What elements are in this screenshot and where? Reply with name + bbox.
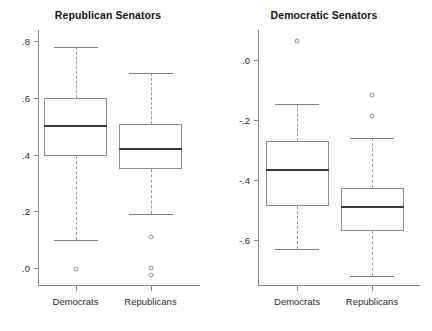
whisker-lower-stem <box>151 169 152 214</box>
box-median <box>119 148 182 150</box>
outlier-point <box>148 234 153 239</box>
box-iqr <box>119 124 182 169</box>
whisker-lower-cap <box>350 276 394 277</box>
whisker-lower-cap <box>129 214 173 215</box>
box-group-republicans <box>0 0 216 331</box>
panel-republican-senators: Republican Senators.0.2.4.6.8DemocratsRe… <box>0 0 216 331</box>
boxplot-figure: Republican Senators.0.2.4.6.8DemocratsRe… <box>0 0 432 331</box>
box-group-republicans <box>216 0 432 331</box>
outlier-point <box>370 113 375 118</box>
whisker-upper-cap <box>350 138 394 139</box>
whisker-upper-stem <box>151 73 152 124</box>
outlier-point <box>148 273 153 278</box>
outlier-point <box>148 266 153 271</box>
whisker-upper-stem <box>372 138 373 188</box>
whisker-lower-stem <box>372 231 373 276</box>
panel-democratic-senators: Democratic Senators.0-.2-.4-.6DemocratsR… <box>216 0 432 331</box>
box-median <box>341 206 404 208</box>
whisker-upper-cap <box>129 73 173 74</box>
box-iqr <box>341 188 404 232</box>
outlier-point <box>370 92 375 97</box>
